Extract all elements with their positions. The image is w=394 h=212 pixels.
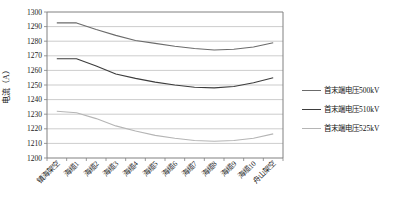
svg-text:1200: 1200 [27, 154, 42, 163]
svg-text:1210: 1210 [27, 139, 42, 148]
legend-label-510kv: 首末端电压510kV [324, 106, 379, 114]
svg-text:海缆5: 海缆5 [140, 158, 160, 178]
svg-text:海缆4: 海缆4 [120, 158, 140, 178]
chart-legend: 首末端电压500kV 首末端电压510kV 首末端电压525kV [302, 84, 394, 135]
legend-line-500kv-icon [302, 90, 321, 91]
legend-line-510kv-icon [302, 109, 321, 110]
svg-text:1260: 1260 [27, 66, 42, 75]
legend-label-525kv: 首末端电压525kV [324, 125, 379, 133]
svg-text:1280: 1280 [27, 37, 42, 46]
legend-entry-510kv: 首末端电压510kV [302, 103, 394, 116]
svg-text:海缆3: 海缆3 [101, 158, 121, 178]
svg-text:1240: 1240 [27, 95, 42, 104]
svg-text:电流（A）: 电流（A） [1, 66, 11, 104]
legend-line-525kv-icon [302, 128, 321, 129]
svg-text:1300: 1300 [27, 8, 42, 17]
svg-text:海缆2: 海缆2 [81, 158, 101, 178]
svg-text:海缆6: 海缆6 [160, 158, 180, 178]
svg-text:1220: 1220 [27, 124, 42, 133]
legend-entry-525kv: 首末端电压525kV [302, 122, 394, 135]
svg-text:1270: 1270 [27, 51, 42, 60]
line-chart: 1200121012201230124012501260127012801290… [0, 0, 394, 212]
svg-text:1250: 1250 [27, 81, 42, 90]
legend-entry-500kv: 首末端电压500kV [302, 84, 394, 97]
svg-text:海缆1: 海缆1 [61, 158, 81, 178]
svg-text:1290: 1290 [27, 22, 42, 31]
svg-text:海缆8: 海缆8 [199, 158, 219, 178]
svg-text:海缆9: 海缆9 [219, 158, 239, 178]
svg-text:1230: 1230 [27, 110, 42, 119]
legend-label-500kv: 首末端电压500kV [324, 87, 379, 95]
svg-text:海缆7: 海缆7 [179, 158, 199, 178]
